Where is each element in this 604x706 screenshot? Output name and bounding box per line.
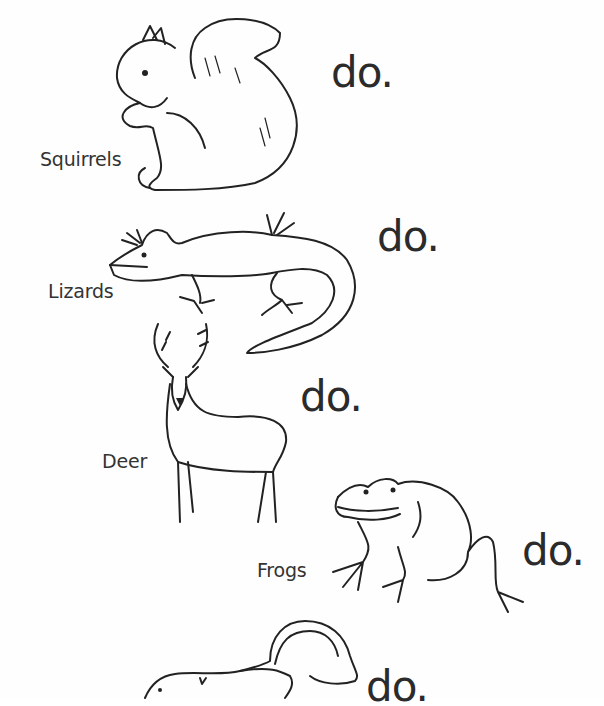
frog-icon [328, 472, 538, 622]
sentence-ending-4: do. [522, 530, 584, 572]
squirrel-icon [105, 18, 305, 193]
sentence-ending-5: do. [366, 666, 428, 706]
sentence-ending-3: do. [300, 376, 362, 418]
animal-label-squirrels: Squirrels [40, 148, 121, 170]
sentence-ending-1: do. [331, 52, 393, 94]
animal-label-lizards: Lizards [48, 280, 114, 302]
animal-label-frogs: Frogs [257, 559, 307, 581]
deer-icon [148, 322, 298, 532]
skunk-icon [140, 616, 370, 698]
animal-label-deer: Deer [102, 450, 147, 472]
sentence-ending-2: do. [377, 216, 439, 258]
